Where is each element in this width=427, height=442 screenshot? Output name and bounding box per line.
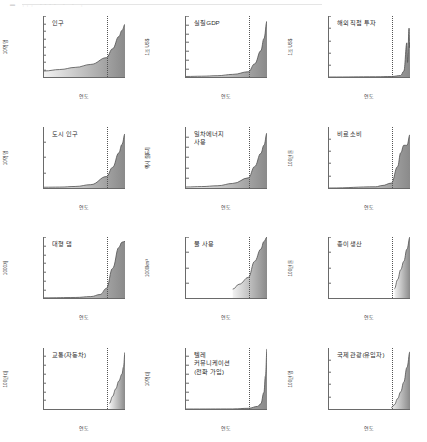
chart-panel-11: 10억 대01234567175018001850190019502000201… bbox=[142, 332, 284, 442]
panel-body: 1000개05101520253035175018001850190019502… bbox=[0, 221, 142, 332]
x-tick-label: 2000 bbox=[404, 188, 410, 189]
y-tick-label: 20 bbox=[43, 262, 44, 266]
panel-body: 1000km³012341750180018501900195020002010… bbox=[142, 221, 284, 332]
x-tick-label: 1950 bbox=[245, 409, 253, 410]
y-axis-label: 1조 US$ bbox=[142, 16, 154, 78]
x-tick-label: 1900 bbox=[372, 409, 380, 410]
x-tick-label: 1750 bbox=[43, 409, 48, 410]
y-tick-label: 15 bbox=[43, 271, 44, 275]
x-tick-label: 1950 bbox=[103, 298, 111, 299]
y-tick-label: 35 bbox=[43, 237, 44, 239]
x-tick-label: 1950 bbox=[103, 409, 111, 410]
x-tick-label: 1850 bbox=[356, 188, 364, 189]
y-tick-label: 30 bbox=[185, 50, 186, 54]
plot-area: 0200400600800100012001400175018001850190… bbox=[43, 348, 125, 410]
y-tick-label: 400 bbox=[328, 237, 329, 239]
y-tick-label: 600 bbox=[185, 127, 186, 129]
y-tick-label: 500 bbox=[185, 135, 186, 139]
x-tick-label: 1900 bbox=[87, 77, 95, 78]
x-tick-label: 1950 bbox=[103, 188, 111, 189]
panel-body: 100만 명0200400600800100017501800185019001… bbox=[285, 332, 427, 442]
y-tick-label: 1000 bbox=[43, 363, 44, 367]
y-tick-label: 60 bbox=[185, 23, 186, 27]
y-tick-label: 1.5 bbox=[328, 39, 329, 43]
panel-body: 10억 명012341750180018501900195020002010도시… bbox=[0, 111, 142, 222]
x-tick-label: 2000 bbox=[119, 77, 125, 78]
x-tick-label: 1800 bbox=[340, 188, 348, 189]
panel-body: 1조 US$00.511.522.51750180018501900195020… bbox=[285, 0, 427, 111]
y-axis-label: 10억 명 bbox=[0, 127, 12, 189]
chart-panel-10: 100만 대0200400600800100012001400175018001… bbox=[0, 332, 142, 442]
plot-area: 0100200300400175018001850190019502000201… bbox=[328, 237, 410, 299]
series-plot bbox=[329, 16, 410, 77]
chart-panel-8: 1000km³012341750180018501900195020002010… bbox=[142, 221, 284, 332]
y-tick-label: 6 bbox=[43, 30, 44, 34]
y-tick-label: 3 bbox=[43, 53, 44, 57]
y-tick-label: 1 bbox=[43, 171, 44, 175]
panel-body: 10억 대01234567175018001850190019502000201… bbox=[142, 332, 284, 442]
y-tick-label: 200 bbox=[43, 399, 44, 403]
chart-panel-1: 10억 명01234567817501800185019001950200020… bbox=[0, 0, 142, 111]
x-tick-label: 1800 bbox=[340, 77, 348, 78]
y-tick-label: 40 bbox=[328, 174, 329, 178]
x-tick-label: 1800 bbox=[56, 188, 64, 189]
area-fill bbox=[391, 351, 410, 408]
x-tick-label: 1850 bbox=[356, 298, 364, 299]
divider-line-1950 bbox=[249, 127, 250, 188]
x-tick-label: 1850 bbox=[214, 188, 222, 189]
x-tick-label: 2000 bbox=[119, 409, 125, 410]
divider-line-1950 bbox=[392, 127, 393, 188]
x-tick-label: 1800 bbox=[56, 409, 64, 410]
x-tick-label: 1750 bbox=[43, 77, 48, 78]
y-axis-label: 100만 명 bbox=[285, 348, 297, 410]
plot-area: 0102030405060701750180018501900195020002… bbox=[185, 16, 267, 78]
y-tick-label: 10 bbox=[43, 279, 44, 283]
chart-panel-2: 1조 US$0102030405060701750180018501900195… bbox=[142, 0, 284, 111]
series-line bbox=[186, 348, 267, 408]
chart-panel-4: 10억 명012341750180018501900195020002010도시… bbox=[0, 111, 142, 222]
chart-panel-7: 1000개05101520253035175018001850190019502… bbox=[0, 221, 142, 332]
area-fill bbox=[44, 24, 125, 77]
y-axis-label: 10억 명 bbox=[0, 16, 12, 78]
y-tick-label: 8 bbox=[43, 16, 44, 18]
chart-panel-12: 100만 명0200400600800100017501800185019001… bbox=[285, 332, 427, 442]
chart-panel-6: 100만 톤0408012016020017501800185019001950… bbox=[285, 111, 427, 222]
x-axis-label: 연도 bbox=[43, 203, 125, 210]
y-tick-label: 5 bbox=[185, 363, 186, 367]
y-tick-label: 4 bbox=[185, 372, 186, 376]
divider-line-1950 bbox=[249, 237, 250, 298]
x-tick-label: 1950 bbox=[245, 77, 253, 78]
y-tick-label: 30 bbox=[43, 244, 44, 248]
divider-line-1950 bbox=[107, 348, 108, 409]
y-tick-label: 10 bbox=[185, 67, 186, 71]
area-fill bbox=[329, 28, 410, 77]
x-tick-label: 1750 bbox=[328, 77, 333, 78]
divider-line-1950 bbox=[392, 237, 393, 298]
y-axis-label: 100만 톤 bbox=[285, 237, 297, 299]
series-line bbox=[329, 28, 410, 77]
y-tick-label: 50 bbox=[185, 32, 186, 36]
y-tick-label: 600 bbox=[328, 371, 329, 375]
y-tick-label: 4 bbox=[43, 45, 44, 49]
y-tick-label: 400 bbox=[328, 383, 329, 387]
series-plot bbox=[329, 348, 410, 409]
x-tick-label: 1950 bbox=[388, 77, 396, 78]
y-tick-label: 70 bbox=[185, 16, 186, 18]
x-tick-label: 1900 bbox=[230, 77, 238, 78]
y-axis-label: 10억 대 bbox=[142, 348, 154, 410]
y-tick-label: 1 bbox=[185, 399, 186, 403]
x-axis-label: 연도 bbox=[185, 92, 267, 99]
x-tick-label: 1750 bbox=[328, 188, 333, 189]
y-tick-label: 400 bbox=[43, 390, 44, 394]
y-tick-label: 600 bbox=[43, 381, 44, 385]
x-tick-label: 1850 bbox=[72, 298, 80, 299]
y-axis-label: 엑사 줄[EJ] bbox=[142, 127, 154, 189]
y-axis-label: 1조 US$ bbox=[285, 16, 297, 78]
y-tick-label: 200 bbox=[185, 166, 186, 170]
x-axis-label: 연도 bbox=[43, 313, 125, 320]
x-tick-label: 2000 bbox=[404, 298, 410, 299]
y-tick-label: 2.5 bbox=[328, 16, 329, 18]
x-tick-label: 1900 bbox=[372, 77, 380, 78]
y-tick-label: 200 bbox=[328, 395, 329, 399]
x-tick-label: 1850 bbox=[356, 77, 364, 78]
